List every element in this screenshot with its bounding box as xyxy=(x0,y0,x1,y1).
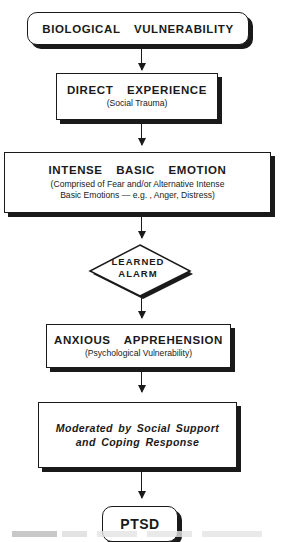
node-learned-alarm-label: LEARNED ALARM xyxy=(84,256,192,280)
node-title: ANXIOUS APPREHENSION xyxy=(54,334,223,346)
node-title: DIRECT EXPERIENCE xyxy=(67,84,207,96)
node-direct-experience: DIRECT EXPERIENCE (Social Trauma) xyxy=(56,73,218,120)
arrow-4 xyxy=(141,297,142,318)
node-subtitle-line-2: Basic Emotions — e.g. , Anger, Distress) xyxy=(60,190,215,201)
diamond-line-2: ALARM xyxy=(84,268,192,280)
node-line-1: Moderated by Social Support xyxy=(56,421,219,435)
figure-caption-cropped xyxy=(12,531,262,537)
node-anxious-apprehension: ANXIOUS APPREHENSION (Psychological Vuln… xyxy=(46,324,231,368)
node-line-2: and Coping Response xyxy=(76,435,199,449)
node-biological-vulnerability: BIOLOGICAL VULNERABILITY xyxy=(27,12,249,45)
diamond-line-1: LEARNED xyxy=(84,256,192,268)
node-intense-basic-emotion: INTENSE BASIC EMOTION (Comprised of Fear… xyxy=(4,152,271,213)
node-title: BIOLOGICAL VULNERABILITY xyxy=(42,23,233,35)
node-title: PTSD xyxy=(120,516,159,532)
arrow-6 xyxy=(141,469,142,498)
node-subtitle-line-1: (Comprised of Fear and/or Alternative In… xyxy=(51,179,225,190)
node-subtitle: (Social Trauma) xyxy=(107,98,168,109)
arrow-1 xyxy=(141,46,142,70)
node-moderated-by-social-support: Moderated by Social Support and Coping R… xyxy=(38,402,237,468)
arrow-2 xyxy=(141,121,142,145)
node-title: INTENSE BASIC EMOTION xyxy=(49,164,227,176)
arrow-3 xyxy=(141,214,142,238)
node-subtitle: (Psychological Vulnerability) xyxy=(85,348,192,359)
arrow-5 xyxy=(141,369,142,392)
